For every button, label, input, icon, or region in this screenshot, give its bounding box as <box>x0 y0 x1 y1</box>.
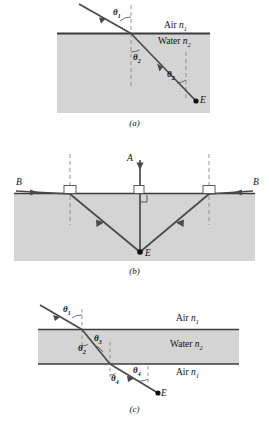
panel-a: θ1 Air n1 Water n2 θ2 θ2 E (a) <box>0 0 269 140</box>
panel-b: A B B E (b) <box>0 140 269 280</box>
angle-arc-theta1-c <box>72 315 82 318</box>
label-water-c: Water n2 <box>170 339 203 351</box>
point-e-dot-a <box>193 98 198 103</box>
angle-label-theta1-a: θ1 <box>113 7 121 19</box>
angle-label-theta4-right-c: θ4 <box>133 365 141 377</box>
incident-ray-arrow-a <box>99 18 106 24</box>
incident-ray-c <box>40 305 82 330</box>
panel-b-graphic <box>0 140 269 280</box>
caption-b: (b) <box>0 266 269 276</box>
label-water-a: Water n2 <box>158 36 191 48</box>
point-e-label-a: E <box>200 95 206 105</box>
caption-c: (c) <box>0 404 269 414</box>
angle-label-theta2-left-a: θ2 <box>133 52 141 64</box>
ray-b-left-label-b: B <box>16 177 22 187</box>
angle-label-theta2-c: θ2 <box>78 343 86 355</box>
label-air-top-c: Air n1 <box>176 313 199 325</box>
water-region-b <box>14 193 255 261</box>
angle-label-theta3-c: θ3 <box>94 333 102 345</box>
angle-arc-theta4-right-c <box>140 379 148 381</box>
right-angle-marker-right-b <box>203 186 215 194</box>
point-e-label-c: E <box>161 388 167 398</box>
ray-b-right-label-b: B <box>253 177 259 187</box>
label-air-bottom-c: Air n1 <box>176 367 199 379</box>
ray-a-label-b: A <box>127 153 133 163</box>
angle-label-theta4-left-c: θ4 <box>111 373 119 385</box>
right-angle-marker-center-b <box>134 186 144 194</box>
panel-c: θ1 Air n1 Water n2 Air n1 θ2 θ3 θ4 θ4 E … <box>0 280 269 421</box>
panel-c-graphic <box>0 280 269 421</box>
caption-a: (a) <box>0 118 269 128</box>
label-air-a: Air n1 <box>164 20 187 32</box>
point-e-label-b: E <box>145 248 151 258</box>
ray-a-arrow-b <box>136 163 143 171</box>
right-angle-marker-left-b <box>64 186 76 194</box>
point-e-dot-b <box>137 249 143 255</box>
angle-arc-theta1-a <box>120 17 131 21</box>
water-slab-c <box>38 329 239 364</box>
angle-label-theta1-c: θ1 <box>63 304 71 316</box>
point-e-dot-c <box>155 390 160 395</box>
angle-label-theta2-right-a: θ2 <box>167 69 175 81</box>
